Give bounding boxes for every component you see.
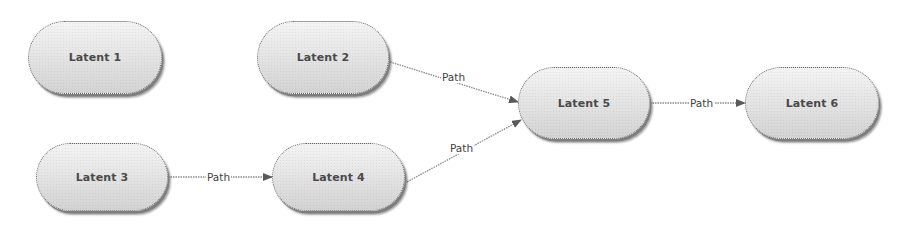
edge-label-latent3-latent4: Path [206,171,231,183]
edge-label-latent2-latent5: Path [441,71,466,83]
node-latent-5[interactable]: Latent 5 [518,67,650,139]
node-latent-4[interactable]: Latent 4 [272,143,405,211]
node-label: Latent 3 [76,171,129,184]
edge-label-latent5-latent6: Path [689,97,714,109]
node-label: Latent 2 [297,51,350,64]
node-latent-2[interactable]: Latent 2 [257,21,389,94]
node-latent-3[interactable]: Latent 3 [36,143,168,211]
node-label: Latent 5 [558,97,611,110]
node-label: Latent 6 [786,97,839,110]
node-latent-1[interactable]: Latent 1 [28,21,162,94]
edge-label-latent4-latent5: Path [449,142,474,154]
node-label: Latent 4 [312,171,365,184]
node-latent-6[interactable]: Latent 6 [745,67,879,139]
node-label: Latent 1 [69,51,122,64]
